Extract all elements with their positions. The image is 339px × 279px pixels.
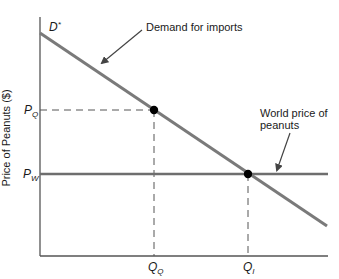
demand-annotation-arrow: [102, 30, 142, 63]
quota-point: [150, 106, 158, 114]
world-price-annotation-line1: World price of: [260, 107, 329, 119]
y-axis-label: Price of Peanuts ($): [0, 89, 12, 186]
qi-tick-label: QI: [243, 260, 255, 276]
world-price-point: [244, 170, 252, 178]
world-price-annotation-arrow: [277, 133, 290, 170]
pq-tick-label: PQ: [24, 103, 38, 119]
pw-tick-label: PW: [23, 167, 40, 183]
demand-annotation: Demand for imports: [146, 21, 243, 33]
chart: Price of Peanuts ($) D* Demand for impor…: [0, 0, 339, 279]
qq-tick-label: QQ: [148, 260, 164, 276]
demand-curve-label: D*: [49, 20, 62, 34]
world-price-annotation-line2: peanuts: [260, 119, 300, 131]
